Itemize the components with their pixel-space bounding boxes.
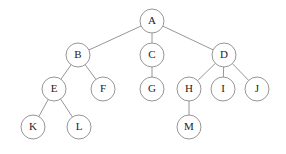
tree-diagram: ABCDEFGHIJKLM bbox=[0, 0, 286, 154]
tree-canvas: ABCDEFGHIJKLM bbox=[0, 0, 286, 154]
tree-node-c[interactable]: C bbox=[140, 43, 164, 67]
tree-node-label-a: A bbox=[148, 14, 156, 26]
tree-node-i[interactable]: I bbox=[211, 77, 235, 101]
tree-node-label-k: K bbox=[29, 120, 37, 132]
tree-node-label-e: E bbox=[51, 82, 58, 94]
tree-node-b[interactable]: B bbox=[66, 43, 90, 67]
tree-node-label-d: D bbox=[220, 48, 228, 60]
tree-node-m[interactable]: M bbox=[177, 115, 201, 139]
tree-node-label-g: G bbox=[148, 82, 156, 94]
tree-node-label-c: C bbox=[148, 48, 155, 60]
tree-node-label-b: B bbox=[74, 48, 81, 60]
edge-layer bbox=[33, 21, 257, 127]
tree-node-label-f: F bbox=[100, 82, 106, 94]
tree-node-g[interactable]: G bbox=[140, 77, 164, 101]
tree-node-a[interactable]: A bbox=[140, 9, 164, 33]
tree-node-k[interactable]: K bbox=[21, 115, 45, 139]
tree-node-label-j: J bbox=[255, 82, 260, 94]
node-layer: ABCDEFGHIJKLM bbox=[21, 9, 269, 139]
tree-node-label-i: I bbox=[221, 82, 225, 94]
tree-node-label-m: M bbox=[184, 120, 194, 132]
tree-node-label-l: L bbox=[76, 120, 83, 132]
tree-node-f[interactable]: F bbox=[91, 77, 115, 101]
tree-node-h[interactable]: H bbox=[177, 77, 201, 101]
tree-node-d[interactable]: D bbox=[212, 43, 236, 67]
tree-node-e[interactable]: E bbox=[42, 77, 66, 101]
tree-node-j[interactable]: J bbox=[245, 77, 269, 101]
tree-node-label-h: H bbox=[185, 82, 193, 94]
tree-node-l[interactable]: L bbox=[67, 115, 91, 139]
